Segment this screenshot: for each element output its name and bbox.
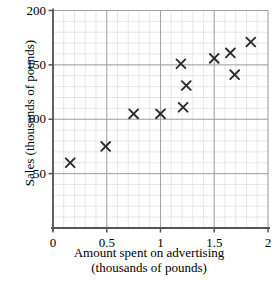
x-axis-title-line2: (thousands of pounds) — [30, 261, 268, 276]
x-axis-title: Amount spent on advertising (thousands o… — [30, 246, 268, 275]
data-point — [101, 142, 110, 151]
data-point — [179, 103, 188, 112]
data-point — [177, 59, 186, 68]
data-point — [246, 38, 255, 47]
data-point — [230, 70, 239, 79]
tick-marks — [49, 11, 269, 233]
data-point — [226, 49, 235, 58]
data-point — [129, 109, 138, 118]
x-axis-title-line1: Amount spent on advertising — [30, 246, 268, 261]
scatter-chart: 50100150200 00.511.52 Sales (thousands o… — [0, 0, 275, 285]
y-axis-title: Sales (thousands of pounds) — [22, 3, 38, 223]
data-point — [182, 81, 191, 90]
